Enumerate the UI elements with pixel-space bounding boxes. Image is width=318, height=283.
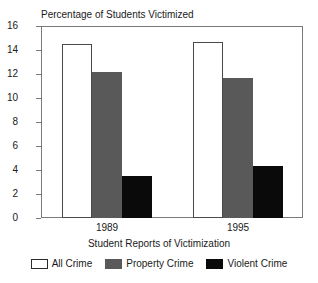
y-axis-tick-label: 0 — [12, 213, 18, 223]
y-axis-tick-label: 8 — [12, 117, 18, 127]
x-axis: 19891995 — [41, 219, 303, 239]
y-axis-tick-label: 14 — [7, 45, 18, 55]
legend-swatch-violent — [206, 259, 223, 269]
x-axis-label: Student Reports of Victimization — [0, 238, 318, 250]
legend-label-property: Property Crime — [126, 258, 193, 270]
legend-entry-property: Property Crime — [105, 258, 193, 270]
y-axis-tick-label: 2 — [12, 189, 18, 199]
legend-label-all: All Crime — [52, 258, 93, 270]
x-axis-tick-label-1995: 1995 — [208, 222, 268, 234]
y-axis-tick-label: 12 — [7, 69, 18, 79]
legend-entry-all: All Crime — [31, 258, 93, 270]
bar-violent-1995 — [253, 166, 283, 218]
bar-violent-1989 — [122, 176, 152, 218]
y-axis-tick-label: 4 — [12, 165, 18, 175]
bar-all-1989 — [62, 44, 92, 218]
legend-entry-violent: Violent Crime — [206, 258, 287, 270]
y-axis-tick-label: 6 — [12, 141, 18, 151]
chart-title: Percentage of Students Victimized — [41, 9, 194, 21]
y-axis-tick-label: 10 — [7, 93, 18, 103]
legend-swatch-property — [105, 259, 122, 269]
bar-property-1995 — [223, 78, 253, 218]
x-axis-tick-label-1989: 1989 — [77, 222, 137, 234]
legend-swatch-all — [31, 259, 48, 269]
chart-legend: All CrimeProperty CrimeViolent Crime — [0, 258, 318, 270]
legend-label-violent: Violent Crime — [227, 258, 287, 270]
bar-chart-figure: Percentage of Students Victimized 024681… — [0, 0, 318, 283]
bar-property-1989 — [92, 72, 122, 218]
bar-all-1995 — [193, 42, 223, 218]
bars-layer — [41, 26, 303, 218]
y-axis-tick-label: 16 — [7, 21, 18, 31]
